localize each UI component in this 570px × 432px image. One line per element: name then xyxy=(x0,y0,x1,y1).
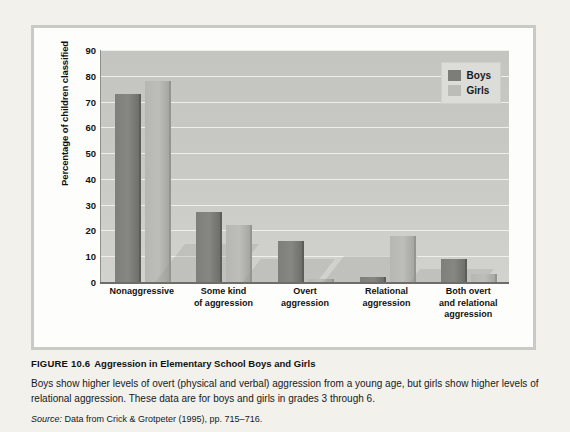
caption-source-text: Data from Crick & Grotpeter (1995), pp. … xyxy=(65,414,263,424)
y-tick-label: 50 xyxy=(72,148,96,159)
figure-plate: Percentage of children classified 908070… xyxy=(0,0,570,432)
x-label-line: Nonaggressive xyxy=(101,286,183,298)
caption-figure-title: Aggression in Elementary School Boys and… xyxy=(94,358,315,369)
x-label-line: and relational xyxy=(427,298,509,310)
legend-swatch-girls xyxy=(448,85,461,96)
y-tick-label: 90 xyxy=(72,45,96,56)
x-label-line: Some kind xyxy=(183,286,265,298)
y-tick-label: 40 xyxy=(72,173,96,184)
x-axis-line xyxy=(100,282,509,284)
legend-swatch-boys xyxy=(448,70,461,81)
bar-girls-5 xyxy=(471,274,497,282)
chart-legend: BoysGirls xyxy=(441,62,501,104)
caption-figure-number: FIGURE 10.6 xyxy=(31,358,90,369)
legend-item-boys: Boys xyxy=(448,68,491,83)
bar-boys-1 xyxy=(115,94,141,282)
x-label-line: aggression xyxy=(264,298,346,310)
x-label-line: Overt xyxy=(264,286,346,298)
bar-boys-3 xyxy=(278,241,304,282)
x-axis-category-labels: NonaggressiveSome kindof aggressionOvert… xyxy=(101,286,509,344)
gridline xyxy=(101,50,509,51)
x-label-5: Both overtand relationalaggression xyxy=(427,286,509,321)
bar-girls-4 xyxy=(390,236,416,282)
y-tick-label: 10 xyxy=(72,251,96,262)
legend-item-girls: Girls xyxy=(448,83,491,98)
x-label-4: Relationalaggression xyxy=(346,286,428,309)
x-label-line: aggression xyxy=(346,298,428,310)
caption-body-text: Boys show higher levels of overt (physic… xyxy=(31,377,539,406)
figure-caption: FIGURE 10.6Aggression in Elementary Scho… xyxy=(31,358,539,425)
x-label-1: Nonaggressive xyxy=(101,286,183,298)
y-axis-tick-labels: 9080706050403020100 xyxy=(72,50,96,282)
bar-boys-5 xyxy=(441,259,467,282)
y-tick-label: 30 xyxy=(72,199,96,210)
caption-title-line: FIGURE 10.6Aggression in Elementary Scho… xyxy=(31,358,539,370)
caption-source-line: Source: Data from Crick & Grotpeter (199… xyxy=(31,413,539,425)
x-label-line: Relational xyxy=(346,286,428,298)
x-label-2: Some kindof aggression xyxy=(183,286,265,309)
y-tick-label: 0 xyxy=(72,277,96,288)
y-tick-label: 60 xyxy=(72,122,96,133)
chart-plot-wrapper: Percentage of children classified 908070… xyxy=(36,30,531,345)
y-tick-label: 80 xyxy=(72,70,96,81)
y-tick-label: 20 xyxy=(72,225,96,236)
bar-girls-1 xyxy=(145,81,171,282)
y-axis-title: Percentage of children classified xyxy=(59,29,70,199)
x-label-3: Overtaggression xyxy=(264,286,346,309)
x-label-line: of aggression xyxy=(183,298,265,310)
x-label-line: Both overt xyxy=(427,286,509,298)
legend-label-girls: Girls xyxy=(467,85,490,96)
plot-area: BoysGirls xyxy=(101,50,509,282)
bar-boys-2 xyxy=(196,212,222,282)
x-label-line: aggression xyxy=(427,309,509,321)
y-tick-label: 70 xyxy=(72,96,96,107)
caption-source-label: Source: xyxy=(31,414,62,424)
legend-label-boys: Boys xyxy=(467,70,491,81)
